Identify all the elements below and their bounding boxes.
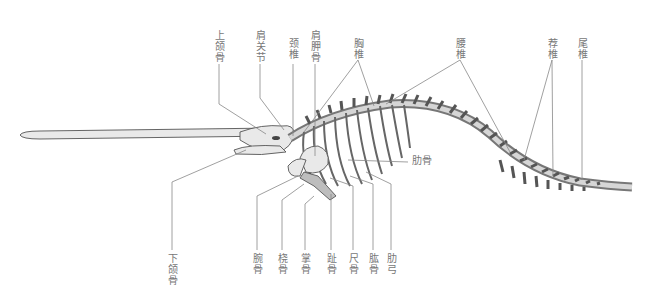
label-maxilla: 上颌骨 [214, 30, 225, 63]
label-cervical-vertebrae: 颈椎 [288, 38, 299, 60]
label-caudal-vertebrae: 尾椎 [577, 38, 588, 60]
label-phalanges: 趾骨 [326, 253, 337, 275]
label-sacral-vertebrae: 荐椎 [547, 38, 558, 60]
label-humerus: 肱骨 [368, 253, 379, 275]
label-mandible: 下颌骨 [167, 253, 178, 286]
label-ribs: 肋骨 [412, 155, 432, 166]
label-shoulder-joint: 肩关节 [255, 30, 266, 63]
label-metacarpals: 掌骨 [300, 253, 311, 275]
eye-socket [272, 136, 280, 140]
label-radius: 桡骨 [277, 253, 288, 275]
mandible-bone [234, 146, 286, 155]
label-scapula: 肩胛骨 [310, 30, 321, 63]
label-thoracic-vertebrae: 胸椎 [353, 38, 364, 60]
label-costal-arch: 肋弓 [386, 253, 397, 275]
label-carpals: 腕骨 [252, 253, 263, 275]
label-lumbar-vertebrae: 腰椎 [455, 38, 466, 60]
label-ulna: 尺骨 [348, 253, 359, 275]
tusk [20, 128, 276, 139]
